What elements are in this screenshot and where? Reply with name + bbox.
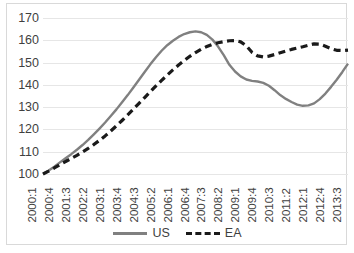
x-tick-label: 2013:3 [332,187,344,222]
x-tick-label: 2003:4 [111,187,123,222]
x-tick-label: 2000:4 [43,187,55,222]
y-tick-label: 150 [9,56,39,69]
y-tick-label: 170 [9,12,39,25]
legend-label: EA [225,227,242,240]
x-tick-label: 2008:2 [213,187,225,222]
x-tick-label: 2005:2 [145,187,157,222]
y-tick-label: 120 [9,123,39,136]
x-tick-label: 2012:4 [315,187,327,222]
legend-label: US [152,227,169,240]
x-tick-label: 2000:1 [27,187,39,222]
x-tick-label: 2011:2 [281,188,293,222]
plot-area [43,18,348,174]
legend-swatch-icon [113,232,147,235]
x-tick-label: 2009:4 [247,187,259,222]
y-axis: 170160150140130120110100 [7,18,39,174]
x-tick-label: 2010:3 [264,187,276,222]
x-tick-label: 2006:4 [179,187,191,222]
y-tick-label: 110 [9,145,39,158]
x-axis: 2000:12000:42001:32002:22003:12003:42004… [43,174,348,222]
chart-container: 170160150140130120110100 2000:12000:4200… [6,3,347,245]
series-line-ea [43,41,348,174]
y-tick-label: 160 [9,34,39,47]
x-tick-label: 2004:3 [128,187,140,222]
legend-entry-us[interactable]: US [113,227,169,240]
x-tick-label: 2003:1 [94,187,106,222]
x-tick-label: 2002:2 [77,187,89,222]
y-tick-label: 100 [9,168,39,181]
y-tick-label: 140 [9,79,39,92]
x-tick-label: 2012:1 [298,187,310,222]
x-tick-label: 2001:3 [60,187,72,222]
legend-entry-ea[interactable]: EA [186,227,242,240]
legend-swatch-icon [186,232,220,235]
x-tick-label: 2006:1 [162,187,174,222]
x-tick-label: 2009:1 [230,187,242,222]
chart-legend: USEA [7,222,348,244]
x-tick-label: 2007:3 [196,187,208,222]
series-layer [43,18,348,174]
y-tick-label: 130 [9,101,39,114]
